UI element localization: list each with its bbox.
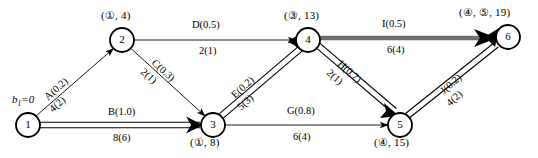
node-1-number: 1	[17, 118, 39, 130]
node-2-number: 2	[111, 33, 133, 45]
edge-D-name: D(0.5)	[192, 19, 220, 30]
edge-G-name: G(0.8)	[287, 105, 315, 116]
edge-B-name: B(1.0)	[108, 106, 135, 117]
node-4-number: 4	[297, 33, 319, 45]
edge-B-value: 8(6)	[113, 132, 131, 143]
edge-I-value: 6(4)	[387, 44, 405, 55]
edge-I	[320, 29, 497, 47]
edge-E-line-a	[220, 46, 299, 113]
node-3-number: 3	[202, 118, 224, 130]
source-node-label-text: b1=0	[12, 93, 34, 105]
node-3-label: (①, 8)	[190, 136, 220, 149]
node-6-number: 6	[497, 30, 519, 42]
edge-D-value: 2(1)	[199, 45, 217, 56]
node-6-label: (④, ⑤, 19)	[459, 6, 510, 19]
node-5-label: (④, 15)	[374, 136, 409, 149]
node-4-label: (③, 13)	[284, 9, 319, 22]
node-5-number: 5	[389, 118, 411, 130]
source-node-label: b1=0	[12, 93, 34, 108]
edge-G-value: 6(4)	[293, 131, 311, 142]
edge-I-name: I(0.5)	[382, 18, 406, 29]
node-2-label: (①, 4)	[101, 9, 131, 22]
edge-B	[40, 117, 203, 134]
network-diagram-canvas: 1 2 3 4 5 6 b1=0 (①, 4) (①, 8) (③, 13) (…	[0, 0, 538, 158]
